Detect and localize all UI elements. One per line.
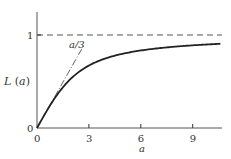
y-tick-label-0: 0	[27, 123, 33, 134]
x-tick-label: 0	[34, 133, 40, 144]
slope-label: a/3	[69, 39, 85, 50]
langevin-chart: 0369 1 0 a/3 L (a) a	[0, 0, 231, 159]
x-tick-label: 3	[86, 133, 92, 144]
x-ticks: 0369	[34, 124, 196, 144]
langevin-curve	[37, 44, 220, 128]
y-tick-label-1: 1	[27, 30, 33, 41]
x-tick-label: 9	[190, 133, 196, 144]
y-axis-label: L (a)	[3, 75, 30, 88]
x-axis-label: a	[139, 143, 145, 154]
